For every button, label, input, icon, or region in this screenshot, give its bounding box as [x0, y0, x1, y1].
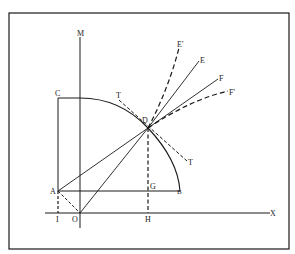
line-o-d [80, 128, 148, 213]
label-c: C [55, 89, 60, 98]
dashed-a-o [58, 191, 80, 213]
label-a: A [50, 187, 56, 196]
label-e: E [200, 56, 205, 65]
line-a-d [58, 128, 148, 191]
arc-c-d-b [80, 98, 180, 191]
label-t-lower: T [188, 158, 193, 167]
label-o: O [72, 215, 78, 224]
label-f-prime: F' [229, 88, 235, 97]
label-e-prime: E' [177, 40, 184, 49]
label-m: M [77, 29, 84, 38]
label-g: G [150, 182, 156, 191]
label-i: I [56, 215, 59, 224]
label-t-upper: T [116, 91, 121, 100]
label-b: B [177, 188, 182, 196]
label-x: X [270, 209, 276, 218]
ray-d-f-prime [148, 91, 228, 128]
label-f: F [219, 74, 224, 83]
label-d: D [142, 116, 148, 125]
frame-border [9, 13, 289, 249]
ray-d-e [148, 61, 199, 128]
label-h: H [145, 215, 151, 224]
ray-d-e-prime [148, 48, 179, 128]
geometry-diagram: M C T D E' E F F' T A G B I O H X [0, 0, 295, 254]
